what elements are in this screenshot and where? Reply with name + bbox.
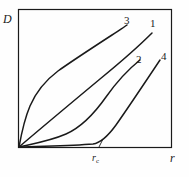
chart-plot [0, 0, 189, 177]
x-axis-label: r [170, 152, 175, 164]
curve-label-2: 2 [136, 54, 142, 65]
curve-label-3: 3 [124, 15, 130, 26]
plot-frame [19, 10, 172, 148]
y-axis-label: D [3, 13, 12, 25]
x-axis-tick-rc: rc [92, 153, 99, 165]
curve-label-1: 1 [150, 18, 156, 29]
curve-label-4: 4 [161, 51, 167, 62]
figure-container: D r rc 1 2 3 4 [0, 0, 189, 177]
rc-subscript: c [96, 157, 99, 165]
